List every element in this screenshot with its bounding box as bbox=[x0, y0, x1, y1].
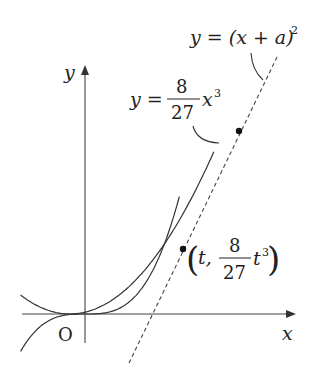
parabola-label-exponent: 2 bbox=[291, 24, 298, 37]
parabola-label-text: y = (x + a) bbox=[189, 26, 294, 48]
parabola-curve bbox=[21, 152, 214, 314]
cubic-label-lhs: y = bbox=[129, 88, 163, 110]
cubic-label-leader bbox=[193, 126, 219, 143]
function-graph: x y O y = 8 27 x 3 y = (x + a) 2 ( t, 8 … bbox=[0, 0, 319, 378]
y-axis-label: y bbox=[63, 61, 75, 83]
point-label-t: t, bbox=[198, 246, 212, 268]
cubic-label-denominator: 27 bbox=[171, 102, 194, 123]
tangent-point-parabola bbox=[236, 128, 242, 134]
tangent-point-label: ( t, 8 27 t 3 ) bbox=[186, 235, 280, 283]
point-label-close-paren: ) bbox=[267, 239, 280, 279]
point-label-var: t bbox=[253, 247, 261, 269]
cubic-label-var: x bbox=[202, 88, 213, 110]
origin-label: O bbox=[58, 324, 73, 345]
point-label-numerator: 8 bbox=[229, 235, 240, 256]
x-axis-label: x bbox=[282, 322, 293, 344]
cubic-label-exponent: 3 bbox=[214, 87, 221, 100]
parabola-label-leader bbox=[251, 53, 263, 80]
cubic-label-numerator: 8 bbox=[176, 76, 187, 97]
point-label-denominator: 27 bbox=[223, 262, 246, 283]
cubic-curve bbox=[21, 197, 180, 352]
cubic-label: y = 8 27 x 3 bbox=[129, 76, 221, 123]
x-axis-arrowhead bbox=[286, 310, 296, 318]
y-axis-arrowhead bbox=[81, 65, 89, 75]
parabola-label: y = (x + a) 2 bbox=[189, 24, 298, 48]
